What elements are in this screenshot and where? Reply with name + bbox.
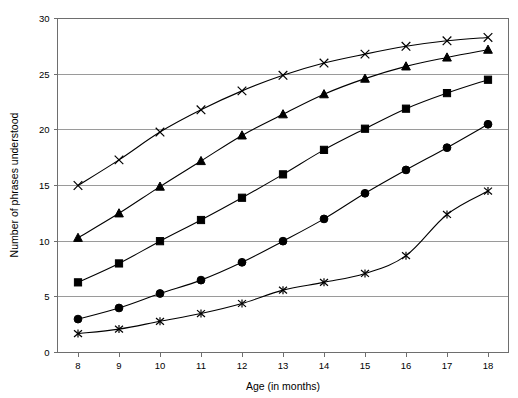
x-tick-label-12: 12 bbox=[237, 360, 248, 371]
series-circle-point-8 bbox=[402, 166, 410, 174]
x-tick-label-8: 8 bbox=[75, 360, 80, 371]
series-square-point-3 bbox=[197, 216, 204, 223]
series-circle-point-7 bbox=[361, 189, 369, 197]
series-circle-point-10 bbox=[484, 120, 492, 128]
series-square-point-6 bbox=[320, 146, 327, 153]
y-axis-title: Number of phrases understood bbox=[8, 112, 20, 257]
series-square-point-8 bbox=[402, 105, 409, 112]
y-tick-label-30: 30 bbox=[39, 13, 50, 24]
x-axis-title: Age (in months) bbox=[246, 380, 320, 392]
series-circle-point-5 bbox=[279, 237, 287, 245]
series-square-point-9 bbox=[443, 89, 450, 96]
line-chart: 051015202530 89101112131415161718 Age (i… bbox=[0, 0, 518, 398]
chart-container: 051015202530 89101112131415161718 Age (i… bbox=[0, 0, 518, 398]
series-circle-point-4 bbox=[238, 258, 246, 266]
series-circle-point-6 bbox=[320, 215, 328, 223]
y-tick-label-15: 15 bbox=[39, 180, 50, 191]
series-square-point-5 bbox=[279, 171, 286, 178]
series-square-point-2 bbox=[156, 238, 163, 245]
x-tick-label-11: 11 bbox=[196, 360, 206, 371]
series-circle-point-9 bbox=[443, 144, 451, 152]
x-tick-label-13: 13 bbox=[278, 360, 289, 371]
x-tick-label-10: 10 bbox=[155, 360, 166, 371]
series-square-point-0 bbox=[74, 279, 81, 286]
series-circle-point-3 bbox=[197, 276, 205, 284]
y-tick-label-5: 5 bbox=[44, 291, 49, 302]
series-circle-point-0 bbox=[74, 315, 82, 323]
y-tick-label-10: 10 bbox=[39, 236, 50, 247]
series-square-point-7 bbox=[361, 125, 368, 132]
series-square-point-10 bbox=[484, 76, 491, 83]
y-tick-label-20: 20 bbox=[39, 124, 50, 135]
x-tick-label-16: 16 bbox=[401, 360, 412, 371]
x-tick-label-17: 17 bbox=[442, 360, 453, 371]
series-circle-point-2 bbox=[156, 290, 164, 298]
x-tick-label-15: 15 bbox=[360, 360, 371, 371]
y-tick-label-0: 0 bbox=[44, 347, 49, 358]
y-tick-label-25: 25 bbox=[39, 69, 50, 80]
chart-background bbox=[0, 0, 518, 398]
x-tick-label-18: 18 bbox=[483, 360, 494, 371]
series-circle-point-1 bbox=[115, 304, 123, 312]
x-tick-label-9: 9 bbox=[116, 360, 121, 371]
x-tick-label-14: 14 bbox=[319, 360, 330, 371]
series-square-point-4 bbox=[238, 194, 245, 201]
series-square-point-1 bbox=[115, 260, 122, 267]
